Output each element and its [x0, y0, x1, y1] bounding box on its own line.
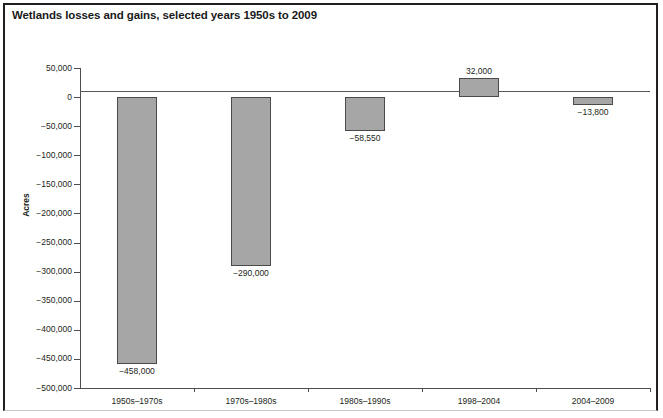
x-axis-tick	[536, 388, 537, 392]
y-axis-tick-label-wrap: −50,000	[8, 121, 72, 132]
y-axis-tick-label: −300,000	[10, 266, 72, 276]
x-axis-tick	[650, 388, 651, 392]
y-axis-tick-label-wrap: −150,000	[8, 179, 72, 190]
y-axis-tick-label-wrap: 0	[8, 92, 72, 103]
y-axis-tick-label-wrap: −100,000	[8, 150, 72, 161]
y-axis-tick-label-wrap: −500,000	[8, 383, 72, 394]
zero-reference-line	[80, 91, 650, 92]
x-axis-tick	[422, 388, 423, 392]
y-axis-tick-label-wrap: 50,000	[8, 63, 72, 74]
y-axis-tick-label: −500,000	[10, 383, 72, 393]
x-axis-category-label: 1980s–1990s	[308, 396, 422, 406]
y-axis-tick-label: −450,000	[10, 353, 72, 363]
y-axis-tick	[74, 97, 80, 98]
y-axis-tick	[74, 388, 80, 389]
bar	[573, 97, 613, 105]
y-axis-tick-label-wrap: −200,000	[8, 208, 72, 219]
plot-area: Acres 50,0000−50,000−100,000−150,000−200…	[0, 0, 663, 418]
y-axis-tick	[74, 213, 80, 214]
y-axis-tick	[74, 184, 80, 185]
x-axis-category-label: 1970s–1980s	[194, 396, 308, 406]
x-axis-tick	[194, 388, 195, 392]
x-axis-tick	[308, 388, 309, 392]
y-axis-tick-label: −200,000	[10, 208, 72, 218]
y-axis-tick	[74, 330, 80, 331]
y-axis-tick-label-wrap: −450,000	[8, 353, 72, 364]
y-axis-tick-label-wrap: −250,000	[8, 237, 72, 248]
x-axis-category-label: 1998–2004	[422, 396, 536, 406]
x-axis-category-label: 2004–2009	[536, 396, 650, 406]
y-axis-tick-label: −350,000	[10, 295, 72, 305]
y-axis-tick	[74, 68, 80, 69]
y-axis-tick-label: −50,000	[10, 121, 72, 131]
y-axis-tick-label-wrap: −350,000	[8, 295, 72, 306]
y-axis-tick-label-wrap: −300,000	[8, 266, 72, 277]
y-axis-tick-label: −400,000	[10, 324, 72, 334]
bar-value-label: 32,000	[429, 66, 529, 76]
y-axis-tick-label: 50,000	[10, 63, 72, 73]
y-axis-tick	[74, 359, 80, 360]
bar	[345, 97, 385, 131]
bar-value-label: −13,800	[543, 107, 643, 117]
chart-page: Wetlands losses and gains, selected year…	[0, 0, 663, 418]
y-axis-tick	[74, 301, 80, 302]
y-axis-tick	[74, 126, 80, 127]
bar-value-label: −58,550	[315, 133, 415, 143]
y-axis-line	[80, 68, 81, 389]
y-axis-tick	[74, 155, 80, 156]
bar	[231, 97, 271, 266]
y-axis-tick	[74, 243, 80, 244]
y-axis-tick-label: −250,000	[10, 237, 72, 247]
bar	[117, 97, 157, 363]
bar-value-label: −458,000	[87, 366, 187, 376]
x-axis-line	[80, 388, 650, 389]
y-axis-tick	[74, 272, 80, 273]
y-axis-tick-label: −150,000	[10, 179, 72, 189]
bar	[459, 78, 499, 97]
x-axis-category-label: 1950s–1970s	[80, 396, 194, 406]
y-axis-tick-label-wrap: −400,000	[8, 324, 72, 335]
y-axis-tick-label: 0	[10, 92, 72, 102]
bar-value-label: −290,000	[201, 268, 301, 278]
y-axis-tick-label: −100,000	[10, 150, 72, 160]
